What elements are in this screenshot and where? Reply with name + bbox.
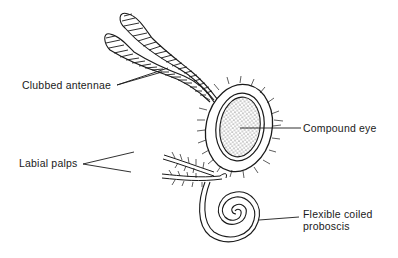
label-proboscis-line2: proboscis xyxy=(303,220,350,232)
coiled-proboscis xyxy=(200,182,260,242)
diagram-canvas: Clubbed antennae Compound eye Labial pal… xyxy=(0,0,398,258)
antenna-upper xyxy=(120,13,218,100)
label-clubbed-antennae: Clubbed antennae xyxy=(22,79,111,91)
label-proboscis-line1: Flexible coiled xyxy=(303,208,373,220)
label-compound-eye: Compound eye xyxy=(303,122,377,134)
label-labial-palps: Labial palps xyxy=(19,157,77,169)
antenna-lower xyxy=(105,34,214,102)
